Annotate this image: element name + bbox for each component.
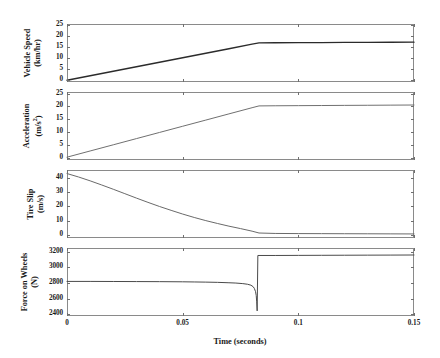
x-tick-mark [298, 157, 299, 160]
y-tick-label: 20 [39, 203, 63, 210]
x-tick-mark [414, 92, 415, 95]
y-tick-label: 5 [39, 66, 63, 73]
y-tick-label: 0 [39, 154, 63, 161]
y-tick-label: 10 [39, 217, 63, 224]
y-tick-label: 25 [39, 22, 63, 29]
x-tick-mark [67, 170, 68, 173]
ylabel-line1: Force on Wheels [20, 253, 29, 312]
y-tick-mark [67, 145, 70, 146]
subplot-force-on-wheels [67, 248, 414, 316]
y-tick-label: 0 [39, 231, 63, 238]
ylabel-line1: Vehicle Speed [23, 29, 32, 78]
x-tick-mark [414, 24, 415, 27]
ylabel-line1: Acceleration [22, 104, 31, 149]
x-tick-mark [414, 157, 415, 160]
subplot-tire-slip [67, 170, 414, 238]
y-tick-mark [411, 299, 414, 300]
y-tick-mark [411, 206, 414, 207]
y-tick-mark [67, 69, 70, 70]
ylabel-line1: Tire Slip [26, 189, 35, 220]
x-tick-mark [67, 92, 68, 95]
y-tick-mark [67, 267, 70, 268]
series-line-force-on-wheels [67, 248, 414, 316]
y-tick-mark [67, 132, 70, 133]
y-tick-mark [411, 58, 414, 59]
y-tick-label: 2400 [39, 311, 63, 318]
y-tick-mark [411, 267, 414, 268]
y-tick-mark [67, 58, 70, 59]
series-line-vehicle-speed [67, 24, 414, 82]
y-tick-label: 3200 [39, 248, 63, 255]
ylabel-line2: (N) [30, 276, 39, 288]
y-tick-label: 30 [39, 188, 63, 195]
x-tick-mark [67, 24, 68, 27]
x-tick-mark [414, 235, 415, 238]
y-tick-mark [67, 299, 70, 300]
y-tick-mark [67, 178, 70, 179]
x-tick-mark [67, 313, 68, 316]
axis-label-time: Time (seconds) [213, 337, 266, 346]
x-tick-mark [67, 157, 68, 160]
y-tick-mark [67, 283, 70, 284]
y-tick-mark [67, 36, 70, 37]
y-tick-label: 10 [39, 55, 63, 62]
x-tick-mark [183, 248, 184, 251]
y-tick-label: 15 [39, 44, 63, 51]
y-tick-mark [411, 252, 414, 253]
series-line-acceleration [67, 92, 414, 160]
x-tick-label: 0.05 [176, 320, 189, 327]
y-tick-mark [67, 47, 70, 48]
y-tick-mark [67, 206, 70, 207]
x-tick-mark [67, 248, 68, 251]
y-tick-label: 0 [39, 77, 63, 84]
x-tick-mark [298, 248, 299, 251]
series-line-tire-slip [67, 170, 414, 238]
y-tick-label: 20 [39, 103, 63, 110]
y-tick-mark [411, 47, 414, 48]
y-tick-mark [67, 106, 70, 107]
axis-label-force-on-wheels: Force on Wheels (N) [20, 253, 40, 312]
x-tick-mark [183, 24, 184, 27]
y-tick-label: 10 [39, 129, 63, 136]
x-tick-mark [414, 248, 415, 251]
y-tick-mark [411, 106, 414, 107]
x-tick-mark [414, 313, 415, 316]
y-tick-mark [411, 192, 414, 193]
x-tick-mark [298, 79, 299, 82]
x-tick-mark [183, 235, 184, 238]
x-tick-mark [183, 170, 184, 173]
y-tick-label: 25 [39, 90, 63, 97]
y-tick-mark [411, 178, 414, 179]
y-tick-mark [67, 252, 70, 253]
x-tick-mark [298, 313, 299, 316]
x-tick-label: 0.15 [408, 320, 421, 327]
x-tick-mark [298, 170, 299, 173]
x-tick-mark [183, 313, 184, 316]
y-tick-mark [411, 36, 414, 37]
y-tick-mark [67, 221, 70, 222]
y-tick-label: 40 [39, 174, 63, 181]
ylabel-superscript: 2 [32, 118, 38, 121]
x-tick-mark [414, 79, 415, 82]
subplot-vehicle-speed [67, 24, 414, 82]
y-tick-mark [411, 221, 414, 222]
figure-canvas: Vehicle Speed (km/hr) Acceleration (m/s2… [0, 0, 440, 358]
x-tick-mark [183, 157, 184, 160]
x-tick-mark [67, 235, 68, 238]
y-tick-mark [67, 192, 70, 193]
subplot-acceleration [67, 92, 414, 160]
x-tick-label: 0 [65, 320, 69, 327]
y-tick-label: 20 [39, 33, 63, 40]
x-tick-mark [298, 235, 299, 238]
y-tick-label: 2600 [39, 295, 63, 302]
y-tick-label: 5 [39, 141, 63, 148]
x-tick-mark [414, 170, 415, 173]
x-tick-mark [298, 24, 299, 27]
x-tick-mark [298, 92, 299, 95]
y-tick-label: 3000 [39, 264, 63, 271]
y-tick-mark [411, 145, 414, 146]
y-tick-label: 15 [39, 116, 63, 123]
y-tick-label: 2800 [39, 279, 63, 286]
x-tick-mark [183, 92, 184, 95]
x-tick-mark [67, 79, 68, 82]
